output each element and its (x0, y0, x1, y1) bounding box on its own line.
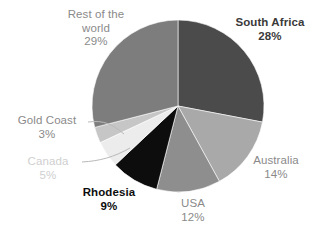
slice-label-name: South Africa (224, 16, 316, 30)
slice-label-percent: 28% (224, 30, 316, 44)
slice-label-percent: 9% (66, 200, 152, 214)
slice-label-percent: 14% (238, 168, 314, 182)
slice-label-name: Rhodesia (66, 186, 152, 200)
slice-label-name: USA (160, 197, 226, 211)
slice-label-gold-coast: Gold Coast 3% (4, 114, 90, 141)
slice-label-south-africa: South Africa 28% (224, 16, 316, 43)
slice-label-percent: 12% (160, 211, 226, 225)
slice-label-percent: 29% (44, 35, 148, 49)
slice-label-percent: 3% (4, 128, 90, 142)
slice-label-name: Gold Coast (4, 114, 90, 128)
pie-chart-figure: South Africa 28% Australia 14% USA 12% R… (0, 0, 319, 235)
slice-label-rest-of-the-world: Rest of the world 29% (44, 8, 148, 49)
slice-label-name-line2: world (44, 22, 148, 36)
slice-label-usa: USA 12% (160, 197, 226, 224)
slice-label-canada: Canada 5% (12, 155, 84, 182)
slice-label-percent: 5% (12, 169, 84, 183)
slice-label-name: Rest of the (44, 8, 148, 22)
slice-label-name: Australia (238, 154, 314, 168)
slice-label-rhodesia: Rhodesia 9% (66, 186, 152, 213)
slice-label-name: Canada (12, 155, 84, 169)
slice-label-australia: Australia 14% (238, 154, 314, 181)
